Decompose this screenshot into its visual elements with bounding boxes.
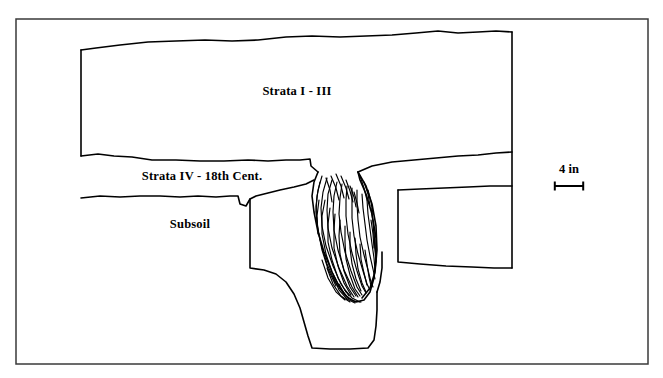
label-subsoil: Subsoil xyxy=(170,217,211,231)
pit-fill-hatching xyxy=(316,174,376,303)
strata-iv-lower-boundary-left xyxy=(81,180,314,206)
subsoil-block-right-outline xyxy=(398,190,512,268)
stratigraphic-profile-drawing: Strata I - III Strata IV - 18th Cent. Su… xyxy=(0,0,663,378)
pit-hatch-stroke xyxy=(341,176,349,199)
label-strata-i-iii: Strata I - III xyxy=(262,84,331,98)
pit-feature-base-edge xyxy=(377,252,382,292)
scale-bar-label: 4 in xyxy=(559,162,579,176)
scale-bar: 4 in xyxy=(554,162,584,191)
label-strata-iv: Strata IV - 18th Cent. xyxy=(142,169,262,183)
profile-lines-group xyxy=(81,31,512,349)
pit-hatch-stroke xyxy=(317,200,319,234)
ground-surface-line xyxy=(81,31,512,50)
figure-border xyxy=(16,19,648,364)
strata-iv-upper-boundary-right xyxy=(358,152,512,172)
strata-iv-lower-boundary-right xyxy=(398,186,512,190)
figure-container: Strata I - III Strata IV - 18th Cent. Su… xyxy=(0,0,663,378)
